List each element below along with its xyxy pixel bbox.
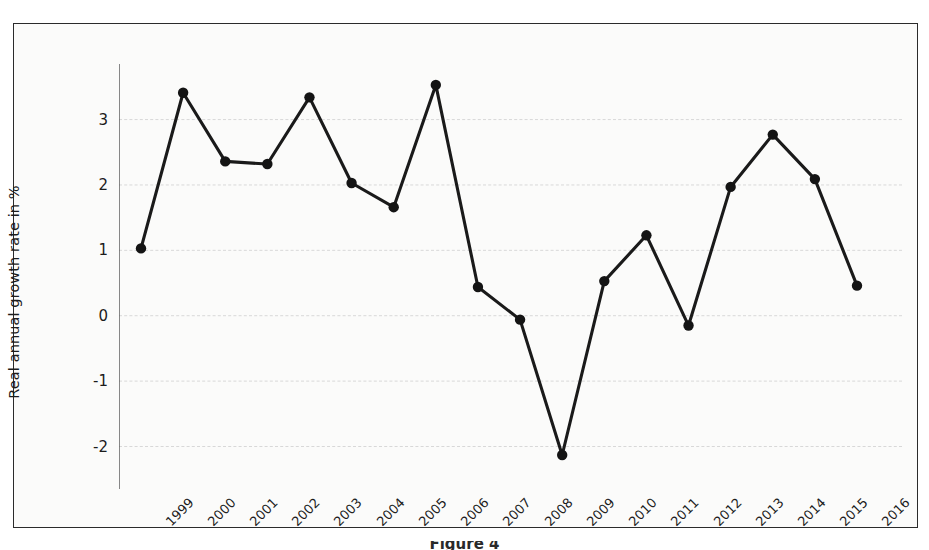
y-axis-tick-label: 1 bbox=[78, 241, 108, 259]
y-axis-tick-label: 2 bbox=[78, 176, 108, 194]
figure-page: Real annual growth rate in % 3210-1-2 19… bbox=[0, 0, 929, 550]
data-point bbox=[220, 156, 230, 166]
x-axis-tick-label: 2008 bbox=[542, 495, 576, 529]
data-point bbox=[852, 280, 862, 290]
data-line bbox=[141, 85, 857, 455]
x-axis-tick-label: 2016 bbox=[879, 495, 913, 529]
y-axis-tick-labels: 3210-1-2 bbox=[76, 64, 108, 489]
data-point bbox=[431, 80, 441, 90]
y-axis-tick-label: 0 bbox=[78, 307, 108, 325]
x-axis-tick-label: 1999 bbox=[163, 495, 197, 529]
data-point bbox=[641, 230, 651, 240]
data-point bbox=[473, 282, 483, 292]
data-point bbox=[810, 174, 820, 184]
y-axis-title: Real annual growth rate in % bbox=[6, 152, 22, 432]
x-axis-tick-label: 2000 bbox=[205, 495, 239, 529]
data-point bbox=[725, 182, 735, 192]
x-axis-tick-label: 2003 bbox=[331, 495, 365, 529]
x-axis-tick-label: 2009 bbox=[584, 495, 618, 529]
data-point bbox=[262, 159, 272, 169]
x-axis-tick-label: 2014 bbox=[794, 495, 828, 529]
x-axis-tick-label: 2005 bbox=[415, 495, 449, 529]
figure-caption: Figure 4 bbox=[0, 541, 929, 550]
x-axis-tick-label: 2002 bbox=[289, 495, 323, 529]
data-point bbox=[683, 320, 693, 330]
x-axis-tick-label: 2004 bbox=[373, 495, 407, 529]
x-axis-tick-label: 2007 bbox=[500, 495, 534, 529]
figure-caption-clip: Figure 4 bbox=[0, 541, 929, 550]
data-point bbox=[557, 450, 567, 460]
data-point bbox=[178, 88, 188, 98]
x-axis-tick-label: 2001 bbox=[247, 495, 281, 529]
y-axis-tick-label: 3 bbox=[78, 111, 108, 129]
y-axis-tick-label: -2 bbox=[78, 438, 108, 456]
plot-area bbox=[119, 64, 902, 489]
data-point bbox=[389, 202, 399, 212]
data-point bbox=[136, 243, 146, 253]
x-axis-tick-label: 2011 bbox=[668, 495, 702, 529]
figure-frame: Real annual growth rate in % 3210-1-2 19… bbox=[13, 23, 918, 528]
data-point bbox=[768, 129, 778, 139]
data-point bbox=[599, 276, 609, 286]
x-axis-tick-label: 2006 bbox=[458, 495, 492, 529]
data-point bbox=[346, 178, 356, 188]
x-axis-tick-label: 2012 bbox=[710, 495, 744, 529]
x-axis-tick-label: 2010 bbox=[626, 495, 660, 529]
data-point bbox=[515, 314, 525, 324]
line-chart bbox=[119, 64, 902, 489]
x-axis-tick-label: 2013 bbox=[752, 495, 786, 529]
y-axis-tick-label: -1 bbox=[78, 372, 108, 390]
x-axis-tick-label: 2015 bbox=[837, 495, 871, 529]
data-point bbox=[304, 92, 314, 102]
